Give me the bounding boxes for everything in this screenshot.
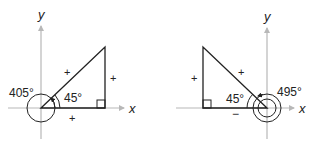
opposite-sign: + — [191, 72, 197, 84]
reference-angle-label: 45° — [226, 92, 244, 106]
hypotenuse-sign: + — [64, 66, 70, 78]
coterminal-angle-label: 405° — [9, 86, 34, 100]
x-axis-label: x — [128, 101, 136, 116]
opposite-sign: + — [110, 72, 116, 84]
adjacent-sign: − — [232, 107, 239, 121]
x-axis-label: x — [298, 101, 306, 116]
right-angle-marker — [97, 100, 105, 108]
hypotenuse-sign: + — [238, 66, 244, 78]
reference-angle-arc — [247, 94, 253, 108]
y-axis-label: y — [37, 7, 46, 22]
reference-angle-arc-outer — [55, 95, 60, 108]
y-axis-label: y — [263, 9, 272, 24]
diagram-405: y x 405° 45° + + + — [8, 7, 136, 139]
reference-angle-label: 45° — [64, 91, 82, 105]
diagram-495: y x 495° 45° + + − — [176, 9, 306, 139]
coterminal-angle-label: 495° — [277, 85, 302, 99]
adjacent-sign: + — [69, 112, 75, 124]
right-angle-marker — [203, 100, 211, 108]
diagram-canvas: y x 405° 45° + + + y x 495° 45° + + − — [0, 0, 314, 144]
